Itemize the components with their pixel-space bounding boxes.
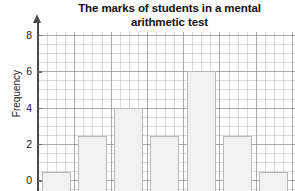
bar-2 [78,136,107,191]
plot-area [38,32,295,191]
chart-title-line-1: The marks of students in a mental [52,2,287,16]
chart-title-line-2: arithmetic test [52,16,287,30]
y-axis-spine [37,22,39,191]
bar-6 [223,136,252,191]
bar-5 [187,71,216,191]
y-tick-mark-2 [38,144,42,145]
bar-1 [42,172,71,191]
y-tick-mark-4 [38,108,42,109]
bar-4 [150,136,179,191]
y-tick-label-0: 0 [10,175,32,186]
y-tick-label-2: 2 [10,139,32,150]
y-axis-ticks: 8 6 4 2 0 [8,0,32,191]
chart-title: The marks of students in a mental arithm… [52,2,287,29]
y-tick-label-8: 8 [10,30,32,41]
chart-figure: The marks of students in a mental arithm… [0,0,295,191]
y-tick-label-6: 6 [10,66,32,77]
bar-7 [259,172,288,191]
y-tick-mark-8 [38,35,42,36]
y-tick-mark-0 [38,180,42,181]
bar-3 [114,108,143,191]
y-tick-mark-6 [38,71,42,72]
y-tick-label-4: 4 [10,103,32,114]
